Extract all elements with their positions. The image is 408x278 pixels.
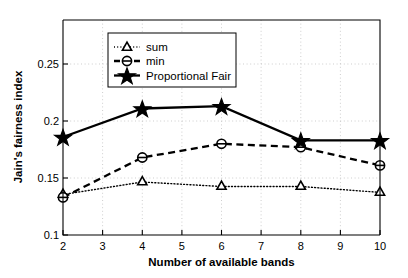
- x-tick-label-3: 5: [179, 240, 185, 252]
- x-axis-tick-labels: 2 3 4 5 6 7 8 9 10: [60, 240, 386, 252]
- marker-min-2: [217, 139, 226, 148]
- y-axis-title: Jain's fairness index: [12, 70, 24, 183]
- legend-label-sum: sum: [146, 41, 168, 53]
- chart-legend: sum min Proportional Fair: [108, 33, 236, 87]
- line-chart-svg: 0.1 0.15 0.2 0.25 2 3 4 5 6 7 8 9 10 Num…: [0, 0, 408, 278]
- y-tick-label-3: 0.25: [38, 58, 59, 70]
- y-tick-label-1: 0.15: [38, 172, 59, 184]
- legend-label-min: min: [146, 55, 165, 67]
- marker-min-1: [138, 153, 147, 162]
- chart-figure: 0.1 0.15 0.2 0.25 2 3 4 5 6 7 8 9 10 Num…: [0, 0, 408, 278]
- y-axis-tick-labels: 0.1 0.15 0.2 0.25: [38, 58, 59, 241]
- x-tick-label-8: 10: [374, 240, 386, 252]
- x-tick-label-1: 3: [100, 240, 106, 252]
- x-tick-label-0: 2: [60, 240, 66, 252]
- y-tick-label-2: 0.2: [44, 115, 59, 127]
- legend-circle-icon: [122, 56, 131, 65]
- x-tick-label-6: 8: [298, 240, 304, 252]
- x-tick-label-5: 7: [258, 240, 264, 252]
- x-tick-label-4: 6: [218, 240, 224, 252]
- legend-label-proportional-fair: Proportional Fair: [146, 70, 231, 82]
- x-tick-label-7: 9: [337, 240, 343, 252]
- x-tick-label-2: 4: [139, 240, 145, 252]
- y-tick-label-0: 0.1: [44, 229, 59, 241]
- x-axis-title: Number of available bands: [148, 256, 294, 268]
